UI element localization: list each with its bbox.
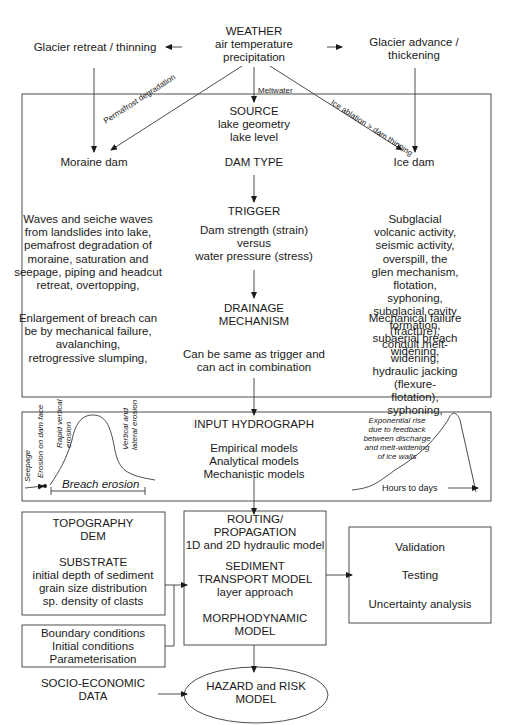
hydrograph-title: INPUT HYDROGRAPH bbox=[194, 418, 314, 431]
exponential-rise-note: Exponential rise due to feedback between… bbox=[363, 416, 430, 461]
validation-item: Validation bbox=[395, 541, 445, 554]
ice-dam-label: Ice dam bbox=[394, 156, 435, 169]
seepage-label: Seepage bbox=[23, 450, 32, 482]
drainage-title: DRAINAGE MECHANISM bbox=[219, 302, 289, 328]
ice-drainage: Mechanical failure (fracture), conduit m… bbox=[367, 312, 463, 418]
substrate-title: SUBSTRATE bbox=[59, 556, 127, 569]
dam-type-label: DAM TYPE bbox=[225, 156, 284, 169]
socio-economic-label: SOCIO-ECONOMIC DATA bbox=[41, 677, 145, 703]
meltwater-label: Meltwater bbox=[258, 86, 293, 95]
source-title: SOURCE bbox=[229, 105, 278, 118]
time-label: Hours to days bbox=[380, 484, 440, 493]
weather-label: WEATHER air temperature precipitation bbox=[215, 25, 293, 65]
seepage-arrow bbox=[25, 486, 44, 488]
moraine-drainage: Enlargement of breach can be by mechanic… bbox=[19, 312, 157, 365]
uncertainty-item: Uncertainty analysis bbox=[369, 598, 472, 611]
morphodynamic-model: MORPHODYNAMIC MODEL bbox=[203, 612, 308, 638]
weather-line: air temperature bbox=[215, 38, 293, 51]
weather-title: WEATHER bbox=[215, 25, 293, 38]
hydrograph-models: Empirical models Analytical models Mecha… bbox=[204, 442, 305, 482]
hydraulic-model: 1D and 2D hydraulic model bbox=[186, 539, 325, 552]
vertical-lateral-label: Vertical and lateral erosion bbox=[121, 400, 139, 450]
drainage-text: Can be same as trigger and can act in co… bbox=[183, 348, 325, 374]
topography-title: TOPOGRAPHY DEM bbox=[53, 517, 134, 543]
glacier-advance-label: Glacier advance / thickening bbox=[369, 36, 459, 62]
sediment-title: SEDIMENT TRANSPORT MODEL bbox=[198, 560, 313, 586]
moraine-dam-label: Moraine dam bbox=[60, 156, 127, 169]
routing-title: ROUTING/ PROPAGATION bbox=[214, 513, 297, 539]
source-details: lake geometry lake level bbox=[218, 118, 290, 144]
erosion-dot bbox=[43, 484, 47, 488]
glacier-retreat-label: Glacier retreat / thinning bbox=[34, 41, 157, 54]
trigger-title: TRIGGER bbox=[228, 205, 280, 218]
rapid-vertical-label: Rapid vertical erosion bbox=[55, 400, 73, 448]
connector-inputs bbox=[165, 585, 174, 646]
moraine-triggers: Waves and seiche waves from landslides i… bbox=[14, 213, 162, 292]
conditions-list: Boundary conditions Initial conditions P… bbox=[41, 627, 145, 667]
weather-line: precipitation bbox=[215, 51, 293, 64]
hazard-model-label: HAZARD and RISK MODEL bbox=[206, 680, 306, 706]
erosion-face-label: Erosion on dam face bbox=[36, 405, 45, 478]
trigger-text: Dam strength (strain) versus water press… bbox=[195, 224, 313, 264]
breach-erosion-label: Breach erosion bbox=[62, 478, 139, 491]
sediment-sub: layer approach bbox=[217, 586, 293, 599]
testing-item: Testing bbox=[402, 569, 438, 582]
substrate-details: initial depth of sediment grain size dis… bbox=[33, 569, 154, 609]
